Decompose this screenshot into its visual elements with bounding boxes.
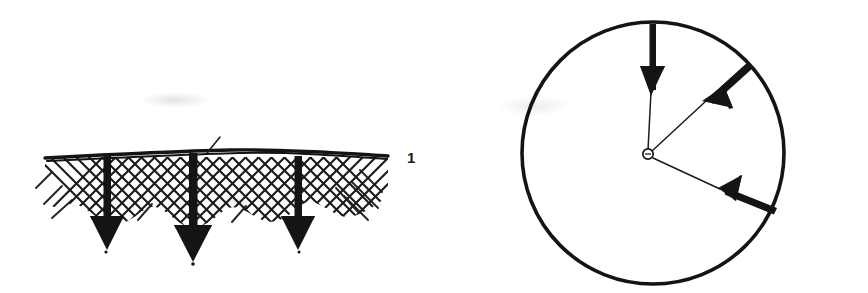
figure-2-panel: 2	[440, 0, 868, 293]
radial-leader-lines	[648, 92, 720, 189]
figure-1-label: 1	[407, 150, 415, 165]
radial-arrow-lower-right	[718, 175, 777, 215]
radial-arrow-top	[640, 24, 665, 96]
figure-sheet: 1	[0, 0, 868, 293]
figure-1-drawing	[0, 0, 440, 293]
figure-2-drawing	[440, 0, 868, 293]
figure-1-panel: 1	[0, 0, 440, 293]
ink-speckles	[104, 250, 300, 265]
radial-arrow-upper-right	[702, 62, 754, 110]
